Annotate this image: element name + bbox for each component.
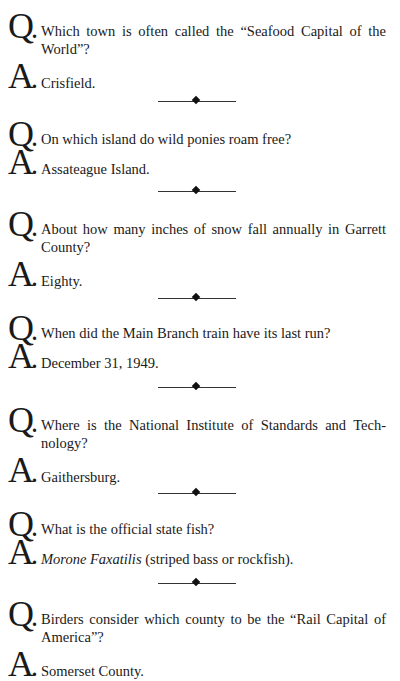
diamond-ornament-icon — [192, 578, 200, 586]
question-text: Where is the National Institute of Stand… — [41, 404, 386, 452]
question-row: Q. Which town is often called the “Seafo… — [8, 10, 386, 58]
a-label: A. — [8, 452, 36, 493]
answer-row: A. Somerset County. — [8, 652, 386, 681]
question-row: Q. What is the official state fish? — [8, 508, 386, 540]
question-text: What is the official state fish? — [41, 508, 386, 538]
section-divider — [158, 186, 236, 196]
question-text: When did the Main Branch train have its … — [41, 312, 386, 342]
qa-item-6: Q. What is the official state fish? A. M… — [8, 508, 386, 570]
q-label: Q. — [8, 402, 36, 443]
answer-row: A. Assateague Island. — [8, 150, 386, 180]
answer-text: Crisfield. — [41, 64, 386, 92]
answer-row: A. Eighty. — [8, 262, 386, 292]
question-row: Q. Where is the National Institute of St… — [8, 404, 386, 452]
answer-italic-text: Morone Faxatilis — [41, 551, 142, 567]
answer-row: A. Gaithersburg. — [8, 458, 386, 488]
a-label: A. — [8, 646, 36, 681]
section-divider — [158, 382, 236, 392]
qa-item-4: Q. When did the Main Branch train have i… — [8, 312, 386, 374]
answer-row: A. Crisfield. — [8, 64, 386, 94]
section-divider — [158, 488, 236, 498]
section-divider — [158, 293, 236, 303]
answer-text: Morone Faxatilis (striped bass or rockfi… — [41, 540, 386, 568]
qa-item-3: Q. About how many inches of snow fall an… — [8, 208, 386, 292]
qa-item-1: Q. Which town is often called the “Seafo… — [8, 10, 386, 94]
section-divider — [158, 96, 236, 106]
question-row: Q. Birders consider which county to be t… — [8, 598, 386, 646]
q-label: Q. — [8, 596, 36, 637]
question-row: Q. When did the Main Branch train have i… — [8, 312, 386, 344]
qa-item-2: Q. On which island do wild ponies roam f… — [8, 118, 386, 180]
q-label: Q. — [8, 8, 36, 49]
a-label: A. — [8, 534, 36, 575]
question-text: Birders consider which county to be the … — [41, 598, 386, 646]
question-row: Q. On which island do wild ponies roam f… — [8, 118, 386, 150]
question-text: On which island do wild ponies roam free… — [41, 118, 386, 148]
qa-item-7: Q. Birders consider which county to be t… — [8, 598, 386, 681]
question-text: About how many inches of snow fall annua… — [41, 208, 386, 256]
q-label: Q. — [8, 206, 36, 247]
answer-text: Gaithersburg. — [41, 458, 386, 486]
answer-row: A. December 31, 1949. — [8, 344, 386, 374]
diamond-ornament-icon — [192, 382, 200, 390]
answer-text: Assateague Island. — [41, 150, 386, 178]
diamond-ornament-icon — [192, 96, 200, 104]
question-row: Q. About how many inches of snow fall an… — [8, 208, 386, 256]
diamond-ornament-icon — [192, 488, 200, 496]
answer-text: Somerset County. — [41, 652, 386, 680]
answer-text: December 31, 1949. — [41, 344, 386, 372]
a-label: A. — [8, 144, 36, 185]
answer-row: A. Morone Faxatilis (striped bass or roc… — [8, 540, 386, 570]
a-label: A. — [8, 338, 36, 379]
qa-item-5: Q. Where is the National Institute of St… — [8, 404, 386, 488]
a-label: A. — [8, 256, 36, 297]
a-label: A. — [8, 58, 36, 99]
answer-text: Eighty. — [41, 262, 386, 290]
diamond-ornament-icon — [192, 293, 200, 301]
question-text: Which town is often called the “Seafood … — [41, 10, 386, 58]
section-divider — [158, 578, 236, 588]
diamond-ornament-icon — [192, 186, 200, 194]
